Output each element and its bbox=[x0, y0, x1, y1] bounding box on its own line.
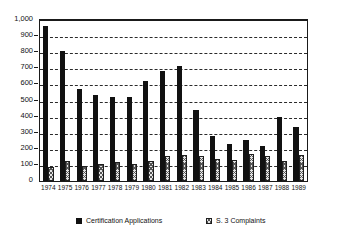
bar-s3-complaints[interactable] bbox=[265, 156, 270, 181]
y-axis-tick bbox=[34, 116, 38, 117]
bar-group bbox=[274, 20, 291, 181]
bar-group bbox=[240, 20, 257, 181]
bar-group bbox=[57, 20, 74, 181]
black-square-icon bbox=[76, 218, 82, 224]
y-axis-tick bbox=[34, 100, 38, 101]
y-axis-tick-label: 400 bbox=[20, 112, 33, 120]
x-axis-tick-label: 1978 bbox=[107, 184, 124, 192]
y-axis: 1,0009008007006005004003002001000 bbox=[0, 19, 36, 182]
x-axis-tick-label: 1984 bbox=[207, 184, 224, 192]
bars-layer bbox=[40, 20, 307, 181]
bar-s3-complaints[interactable] bbox=[199, 156, 204, 181]
y-axis-tick bbox=[34, 35, 38, 36]
bar-s3-complaints[interactable] bbox=[282, 161, 287, 181]
bar-s3-complaints[interactable] bbox=[299, 155, 304, 181]
bar-s3-complaints[interactable] bbox=[232, 160, 237, 181]
x-axis-tick-label: 1979 bbox=[123, 184, 140, 192]
bar-group bbox=[73, 20, 90, 181]
y-axis-tick-label: 800 bbox=[20, 47, 33, 55]
y-axis-tick bbox=[34, 51, 38, 52]
y-axis-tick-label: 200 bbox=[20, 144, 33, 152]
y-axis-tick-label: 0 bbox=[29, 176, 33, 184]
bar-group bbox=[257, 20, 274, 181]
x-axis-tick-label: 1983 bbox=[190, 184, 207, 192]
bar-group bbox=[207, 20, 224, 181]
bar-group bbox=[224, 20, 241, 181]
bar-s3-complaints[interactable] bbox=[82, 166, 87, 181]
hatched-square-icon bbox=[206, 218, 212, 224]
bar-group bbox=[40, 20, 57, 181]
bar-group bbox=[157, 20, 174, 181]
bar-s3-complaints[interactable] bbox=[249, 154, 254, 181]
bar-s3-complaints[interactable] bbox=[132, 164, 137, 181]
x-axis-tick-label: 1989 bbox=[290, 184, 307, 192]
y-axis-tick bbox=[34, 164, 38, 165]
y-axis-tick-label: 300 bbox=[20, 128, 33, 136]
x-axis-tick-label: 1986 bbox=[240, 184, 257, 192]
bar-s3-complaints[interactable] bbox=[182, 155, 187, 181]
legend-label: S. 3 Complaints bbox=[216, 216, 265, 225]
x-axis-tick-label: 1985 bbox=[224, 184, 241, 192]
x-axis-tick-label: 1976 bbox=[73, 184, 90, 192]
y-axis-tick bbox=[34, 67, 38, 68]
bar-s3-complaints[interactable] bbox=[48, 167, 53, 181]
x-axis-tick-label: 1977 bbox=[90, 184, 107, 192]
bar-s3-complaints[interactable] bbox=[148, 161, 153, 181]
y-axis-tick bbox=[34, 132, 38, 133]
y-axis-tick-label: 900 bbox=[20, 31, 33, 39]
bar-certification-applications[interactable] bbox=[43, 26, 48, 181]
y-axis-tick-label: 500 bbox=[20, 96, 33, 104]
legend-label: Certification Applications bbox=[86, 216, 162, 225]
x-axis-tick-label: 1981 bbox=[157, 184, 174, 192]
bar-s3-complaints[interactable] bbox=[65, 161, 70, 181]
bar-group bbox=[107, 20, 124, 181]
x-axis-tick-label: 1975 bbox=[57, 184, 74, 192]
x-axis-tick-label: 1974 bbox=[40, 184, 57, 192]
y-axis-tick-label: 700 bbox=[20, 63, 33, 71]
bar-group bbox=[190, 20, 207, 181]
bar-chart-figure: 1,0009008007006005004003002001000 197419… bbox=[0, 0, 346, 241]
x-axis-tick-label: 1982 bbox=[174, 184, 191, 192]
bar-s3-complaints[interactable] bbox=[215, 159, 220, 181]
y-axis-tick-label: 600 bbox=[20, 79, 33, 87]
bar-s3-complaints[interactable] bbox=[115, 162, 120, 181]
x-axis-tick-label: 1988 bbox=[274, 184, 291, 192]
bar-group bbox=[123, 20, 140, 181]
bar-group bbox=[90, 20, 107, 181]
bar-group bbox=[174, 20, 191, 181]
y-axis-tick bbox=[34, 83, 38, 84]
bar-s3-complaints[interactable] bbox=[98, 164, 103, 181]
chart-legend: Certification Applications S. 3 Complain… bbox=[39, 216, 308, 230]
y-axis-tick-label: 1,000 bbox=[14, 15, 33, 23]
legend-item-s3-complaints[interactable]: S. 3 Complaints bbox=[206, 216, 265, 225]
x-axis-tick-label: 1980 bbox=[140, 184, 157, 192]
y-axis-tick-label: 100 bbox=[20, 160, 33, 168]
bar-group bbox=[140, 20, 157, 181]
bar-s3-complaints[interactable] bbox=[165, 156, 170, 181]
y-axis-tick bbox=[34, 148, 38, 149]
legend-item-certification-applications[interactable]: Certification Applications bbox=[76, 216, 162, 225]
bar-group bbox=[290, 20, 307, 181]
x-axis: 1974197519761977197819791980198119821983… bbox=[39, 184, 308, 194]
x-axis-tick-label: 1987 bbox=[257, 184, 274, 192]
chart-title-truncated bbox=[22, 0, 330, 5]
